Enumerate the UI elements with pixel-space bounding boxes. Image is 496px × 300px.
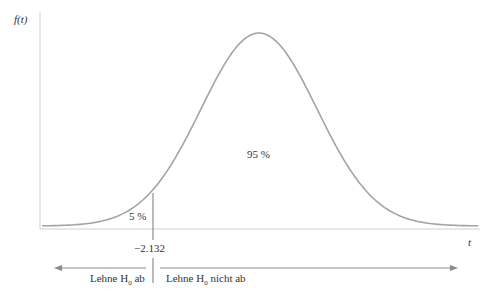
x-axis-label: t <box>468 236 471 248</box>
left-arrowhead-icon <box>54 265 62 271</box>
critical-value-label: −2.132 <box>134 242 165 254</box>
y-axis-label: f(t) <box>14 13 27 25</box>
accept-region-label: Lehne H0 nicht ab <box>166 272 246 287</box>
accept-text: Lehne H <box>166 272 204 284</box>
acceptance-area-label: 95 % <box>247 148 270 160</box>
rejection-area-label: 5 % <box>129 210 146 222</box>
reject-region-label: Lehne H0 ab <box>90 272 145 287</box>
accept-suffix: nicht ab <box>208 272 246 284</box>
density-curve <box>42 33 478 226</box>
right-arrowhead-icon <box>450 265 458 271</box>
reject-text: Lehne H <box>90 272 128 284</box>
reject-suffix: ab <box>132 272 145 284</box>
